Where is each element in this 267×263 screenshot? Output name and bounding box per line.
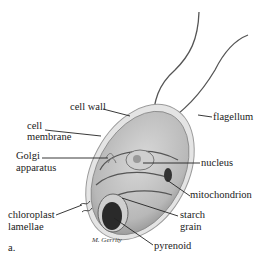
label-starch-2: grain <box>180 221 202 233</box>
label-cell-wall: cell wall <box>70 101 106 113</box>
label-starch-1: starch <box>180 209 205 221</box>
label-flagellum: flagellum <box>213 111 253 123</box>
label-cell-membrane-2: membrane <box>27 131 71 143</box>
label-chloroplast-1: chloroplast <box>8 209 55 221</box>
artist-signature: M. Gerrity <box>92 236 122 244</box>
label-mitochondrion: mitochondrion <box>190 189 252 201</box>
label-golgi-2: apparatus <box>16 162 56 174</box>
pyrenoid-shape <box>102 202 122 230</box>
panel-label: a. <box>8 242 15 254</box>
label-nucleus: nucleus <box>201 157 233 169</box>
label-pyrenoid: pyrenoid <box>154 240 191 252</box>
label-chloroplast-2: lamellae <box>8 221 44 233</box>
label-golgi-1: Golgi <box>16 150 40 162</box>
